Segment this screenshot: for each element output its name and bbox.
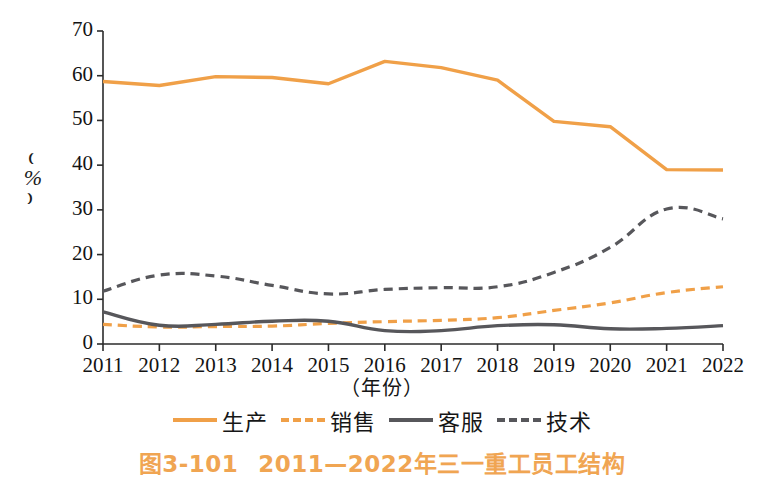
y-tick-label: 20 [53,241,93,266]
y-tick-label: 70 [53,17,93,42]
chart-legend: 生产销售客服技术 [0,404,764,436]
legend-swatch-solid [173,418,217,422]
caption-number: 图3-101 [139,451,239,477]
legend-label: 客服 [438,404,483,436]
y-tick-label: 30 [53,196,93,221]
y-tick-label: 40 [53,151,93,176]
y-tick-label: 50 [53,106,93,131]
figure-caption: 图3-1012011—2022年三一重工员工结构 [0,445,764,479]
figure-container: ⌣ % ⌢ 010203040506070 201120122013201420… [0,0,764,486]
y-tick-label: 10 [53,285,93,310]
legend-label: 生产 [222,404,267,436]
y-tick-label: 60 [53,62,93,87]
series-line-1 [103,61,723,170]
x-axis-title: （年份） [0,372,764,401]
line-chart-svg [0,0,764,400]
legend-item-2[interactable]: 销售 [281,404,375,436]
plot-area: ⌣ % ⌢ 010203040506070 201120122013201420… [0,0,764,400]
legend-swatch-dashed [497,418,541,422]
series-line-2 [103,287,723,327]
series-lines [103,61,723,331]
legend-label: 销售 [330,404,375,436]
y-tick-label: 0 [53,330,93,355]
y-axis-title: ⌣ % ⌢ [16,150,50,206]
legend-swatch-solid [389,418,433,422]
y-axis-paren-top: ⌣ [21,141,45,175]
series-line-3 [103,312,723,332]
caption-text: 2011—2022年三一重工员工结构 [258,451,625,477]
legend-item-1[interactable]: 生产 [173,404,267,436]
series-line-4 [103,207,723,294]
legend-swatch-dashed [281,418,325,422]
legend-item-4[interactable]: 技术 [497,404,591,436]
legend-item-3[interactable]: 客服 [389,404,483,436]
y-axis-paren-bottom: ⌢ [21,181,45,215]
legend-label: 技术 [546,404,591,436]
